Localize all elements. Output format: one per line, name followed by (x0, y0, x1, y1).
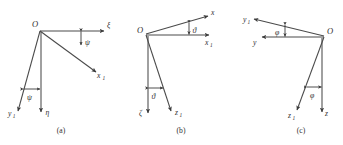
panel-b-label-x1-sub: 1 (210, 42, 213, 48)
figure-container: O ξ x 1 η y 1 ψ ψ (a) (0, 0, 343, 145)
panel-a-label-xi: ξ (107, 21, 111, 30)
panel-a: O ξ x 1 η y 1 ψ ψ (a) (7, 19, 111, 135)
panel-a-label-x1-base: x (96, 71, 101, 80)
panel-c-origin-label: O (327, 26, 333, 36)
panel-c-label-z: z (324, 109, 328, 118)
panel-c-label-y1: y 1 (242, 15, 251, 25)
panel-a-caption: (a) (57, 126, 66, 135)
panel-a-label-eta: η (46, 108, 50, 117)
panel-b-axis-x (146, 16, 208, 34)
panel-c-label-z1-sub: 1 (293, 115, 296, 121)
panel-a-label-y1-sub: 1 (13, 113, 16, 119)
panel-c-label-z1: z 1 (287, 111, 296, 121)
panel-c-angle-label-lower: φ (310, 91, 315, 100)
panel-b-angle-label-lower: ϑ (152, 92, 157, 101)
panel-a-label-y1-base: y (7, 109, 12, 118)
panel-a-label-x1-sub: 1 (103, 75, 106, 81)
panel-c: O y 1 y z z 1 φ φ (c) (242, 15, 333, 135)
panel-b-angle-label-upper: ϑ (193, 26, 198, 35)
panel-a-label-y1: y 1 (7, 109, 16, 119)
panel-b-axis-z1 (146, 35, 171, 111)
euler-angles-figure: O ξ x 1 η y 1 ψ ψ (a) (0, 0, 343, 145)
panel-a-origin-label: O (32, 19, 38, 29)
panel-a-angle-label-upper: ψ (85, 38, 90, 47)
panel-c-label-y1-sub: 1 (248, 19, 251, 25)
panel-b-label-z1: z 1 (174, 108, 183, 118)
panel-b-label-x1: x 1 (204, 38, 213, 48)
panel-c-axis-y1 (254, 19, 324, 36)
panel-b-label-x: x (210, 8, 215, 17)
panel-b-label-x1-base: x (204, 38, 209, 47)
panel-b: O x x 1 ζ z 1 ϑ ϑ (b) (137, 8, 215, 135)
panel-b-label-z1-sub: 1 (180, 112, 183, 118)
panel-b-label-zeta: ζ (139, 109, 143, 118)
panel-a-angle-label-lower: ψ (27, 93, 32, 102)
panel-b-label-z1-base: z (174, 108, 178, 117)
panel-c-label-z1-base: z (287, 111, 291, 120)
panel-a-label-x1: x 1 (96, 71, 106, 81)
panel-c-label-y1-base: y (242, 15, 247, 24)
panel-c-caption: (c) (297, 126, 306, 135)
panel-b-caption: (b) (177, 126, 186, 135)
panel-c-angle-label-upper: φ (275, 28, 280, 37)
panel-c-label-y: y (252, 38, 257, 47)
panel-b-origin-label: O (137, 25, 143, 35)
